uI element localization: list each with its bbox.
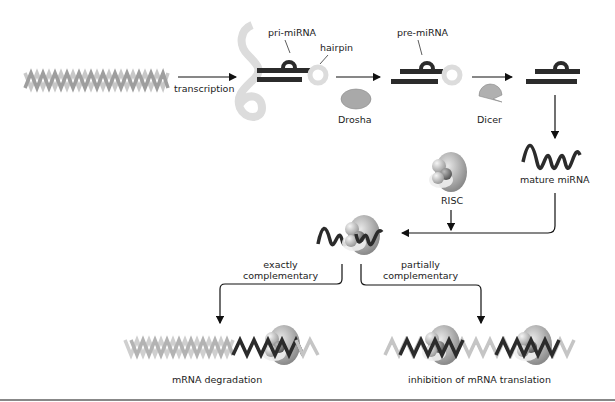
label-transcription: transcription	[174, 83, 234, 94]
label-pri-mirna: pri-miRNA	[268, 27, 316, 38]
label-partially-complementary: partially complementary	[383, 259, 458, 281]
label-mature-mirna: mature miRNA	[520, 174, 589, 185]
label-exactly-line1: exactly	[243, 259, 318, 270]
label-inhibition-translation: inhibition of mRNA translation	[408, 374, 551, 385]
label-risc: RISC	[441, 195, 463, 206]
drosha-enzyme-icon	[341, 89, 371, 109]
mirna-pathway-diagram	[0, 0, 615, 402]
mature-mirna-icon	[523, 146, 580, 169]
label-exactly-complementary: exactly complementary	[243, 259, 318, 281]
bottom-divider	[0, 399, 615, 401]
label-pre-mirna: pre-miRNA	[397, 27, 448, 38]
label-partially-line1: partially	[383, 259, 458, 270]
label-drosha: Drosha	[338, 114, 372, 125]
label-mrna-degradation: mRNA degradation	[172, 374, 262, 385]
label-exactly-line2: complementary	[243, 270, 318, 281]
mirna-duplex-icon	[526, 63, 580, 84]
risc-complex-icon	[429, 152, 467, 192]
dicer-enzyme-icon	[479, 84, 502, 102]
mrna-degradation-icon	[125, 340, 233, 355]
label-hairpin: hairpin	[320, 42, 353, 53]
dna-helix-icon	[25, 73, 168, 88]
label-partially-line2: complementary	[383, 270, 458, 281]
pre-mirna-icon	[391, 63, 460, 84]
pri-mirna-duplex-icon	[257, 62, 326, 83]
label-dicer: Dicer	[477, 114, 502, 125]
